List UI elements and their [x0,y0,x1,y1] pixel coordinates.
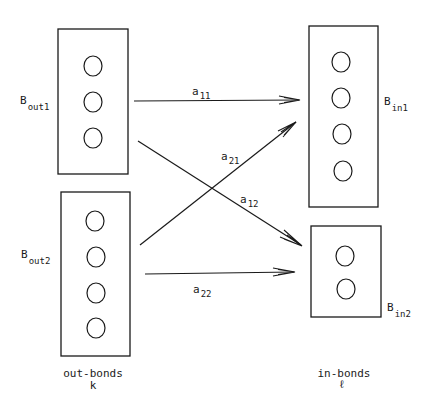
bond-circle [84,92,102,112]
bond-circle [86,211,104,231]
bout2-box [61,192,130,356]
bout2-label: Bout2 [21,248,50,266]
bin1-label: Bin1 [384,95,408,113]
bond-circle [87,318,105,338]
edge-a21-label: a21 [221,150,239,166]
bond-circle [333,124,351,144]
bond-circle [87,283,105,303]
bond-diagram: Bout1 Bout2 Bin1 Bin2 a11 a12 [0,0,435,411]
in-bonds-index: ℓ [339,378,346,391]
bin2-box [311,226,381,317]
bout1-label: Bout1 [20,94,49,112]
node-bin1: Bin1 [309,26,408,207]
bond-circle [87,247,105,267]
bin2-label: Bin2 [387,301,411,319]
arrow-line [145,272,294,274]
out-bonds-index: k [90,379,97,392]
bond-circle [336,246,354,266]
edge-a12: a12 [138,141,302,246]
bin1-box [309,26,378,207]
node-bout1: Bout1 [20,29,128,174]
bond-circle [334,161,352,181]
edge-a12-label: a12 [240,193,258,209]
bond-circle [84,128,102,148]
bond-circle [84,56,102,76]
edge-a22-label: a22 [193,283,211,299]
bond-circle [332,88,350,108]
node-bout2: Bout2 [21,192,130,356]
arrowhead-icon [280,230,302,246]
edge-a11: a11 [134,85,300,104]
node-bin2: Bin2 [311,226,411,319]
arrow-line [138,141,301,245]
edge-a11-label: a11 [192,85,210,101]
arrow-line [134,100,299,101]
bond-circle [332,52,350,72]
edge-a22: a22 [145,268,295,299]
bout1-box [58,29,128,174]
bond-circle [337,279,355,299]
